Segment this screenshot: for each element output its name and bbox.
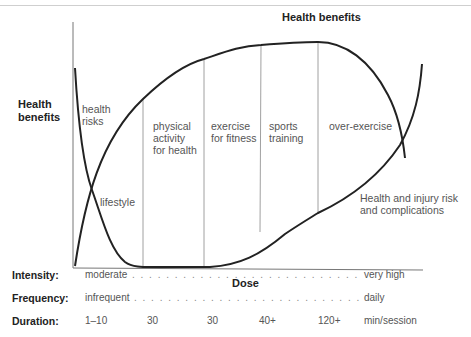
zone-label-line: for health [153, 144, 197, 156]
frequency-label: Frequency: [12, 291, 69, 305]
zone-label-line: training [269, 132, 303, 144]
duration-value: 1–10 [85, 314, 107, 328]
duration-unit: min/session [364, 314, 417, 328]
duration-value: 40+ [259, 314, 276, 328]
intensity-start: moderate [85, 268, 127, 282]
frequency-dots: . . . . . . . . . . . . . . . . . . . . … [134, 291, 360, 305]
zone-divider [260, 45, 261, 232]
zone-label-line: physical [153, 120, 197, 132]
y-axis-title-line2: benefits [18, 111, 60, 124]
top-title: Health benefits [282, 11, 361, 23]
duration-value: 30 [147, 314, 158, 328]
frequency-start: infrequent [85, 291, 129, 305]
zone-label-line: activity [153, 132, 197, 144]
zone-label-line: risks [82, 115, 111, 127]
zone-label-sports-training: sports training [269, 120, 303, 144]
zone-label-line: exercise [211, 120, 257, 132]
health-benefits-curve [75, 42, 405, 266]
duration-value: 120+ [318, 314, 341, 328]
risk-curve-label: Health and injury risk and complications [360, 192, 458, 216]
duration-label: Duration: [12, 314, 59, 328]
intensity-end: very high [364, 268, 405, 282]
zone-label-health-risks: health risks [82, 103, 111, 127]
intensity-row: Intensity: moderate . . . . . . . . . . … [12, 268, 471, 282]
zone-label-line: over-exercise [329, 120, 392, 132]
intensity-dots: . . . . . . . . . . . . . . . . . . . . … [132, 268, 360, 282]
health-risk-curve [75, 64, 422, 267]
y-axis-title-line1: Health [18, 98, 60, 111]
risk-curve-label-line2: and complications [360, 204, 458, 216]
duration-row: Duration: 1–10 30 30 40+ 120+ min/sessio… [12, 314, 471, 328]
duration-value: 30 [207, 314, 218, 328]
frequency-row: Frequency: infrequent . . . . . . . . . … [12, 291, 471, 305]
zone-label-over-exercise: over-exercise [329, 120, 392, 132]
zone-label-exercise-fitness: exercise for fitness [211, 120, 257, 144]
zone-label-lifestyle: lifestyle [100, 196, 135, 208]
y-axis-title: Health benefits [18, 98, 60, 124]
zone-label-line: sports [269, 120, 303, 132]
zone-label-line: for fitness [211, 132, 257, 144]
zone-label-line: lifestyle [100, 196, 135, 208]
zone-label-physical-activity: physical activity for health [153, 120, 197, 156]
zone-label-line: health [82, 103, 111, 115]
frequency-end: daily [364, 291, 385, 305]
intensity-label: Intensity: [12, 268, 59, 282]
risk-curve-label-line1: Health and injury risk [360, 192, 458, 204]
